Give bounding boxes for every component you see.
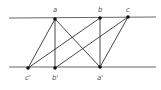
edge-b-c_prime bbox=[28, 18, 100, 68]
edge-c-a_prime bbox=[100, 17, 128, 67]
edge-c-b_prime bbox=[55, 17, 128, 68]
parallel-lines bbox=[9, 17, 156, 67]
edge-a-a_prime bbox=[55, 19, 100, 67]
label-b_prime: b' bbox=[52, 74, 58, 82]
point-b bbox=[98, 16, 102, 20]
diagram-canvas: abcc'b'a' bbox=[0, 0, 161, 90]
connecting-edges bbox=[28, 17, 128, 68]
point-c bbox=[126, 15, 130, 19]
label-a_prime: a' bbox=[97, 74, 103, 82]
point-c_prime bbox=[26, 66, 30, 70]
edge-a-c_prime bbox=[28, 19, 55, 68]
label-c_prime: c' bbox=[25, 74, 31, 82]
point-a_prime bbox=[98, 65, 102, 69]
top-line bbox=[9, 17, 156, 18]
point-b_prime bbox=[53, 66, 57, 70]
label-b: b bbox=[98, 6, 103, 14]
label-c: c bbox=[126, 6, 130, 14]
point-a bbox=[53, 17, 57, 21]
label-a: a bbox=[53, 6, 57, 14]
